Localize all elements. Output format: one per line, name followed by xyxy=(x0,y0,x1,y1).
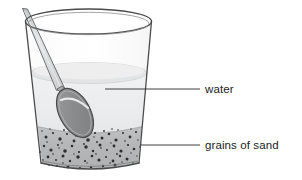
glass-vessel xyxy=(20,9,160,180)
grains-of-sand-label: grains of sand xyxy=(205,139,279,151)
diagram-canvas: water grains of sand xyxy=(0,0,302,179)
water-label: water xyxy=(204,83,234,95)
glass-rim-outer xyxy=(26,9,152,34)
glass-rim-inner xyxy=(28,12,149,34)
glass-of-water-diagram: water grains of sand xyxy=(0,0,302,179)
annotation-grains-of-sand: grains of sand xyxy=(141,139,279,151)
